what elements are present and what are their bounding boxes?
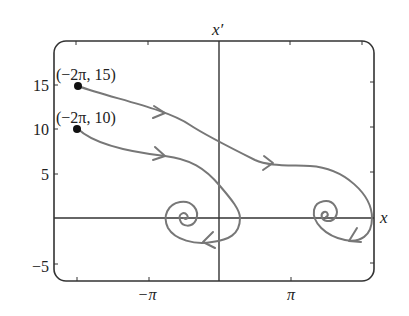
x-tick-label-neg-pi: −π (138, 286, 158, 303)
arrow-icon (153, 106, 165, 118)
x-axis-label: x (379, 208, 388, 227)
y-tick-label-15: 15 (33, 77, 49, 94)
y-tick-label-10: 10 (33, 121, 49, 138)
start-point-lower (73, 125, 81, 133)
point-label-lower: (−2π, 10) (56, 109, 116, 127)
arrow-icon (203, 232, 215, 248)
point-label-upper: (−2π, 15) (56, 66, 116, 84)
start-point-upper (74, 82, 82, 90)
y-tick-label-neg5: −5 (32, 258, 49, 275)
y-tick-label-5: 5 (41, 166, 49, 183)
x-tick-label-pi: π (287, 286, 296, 303)
arrow-icon (153, 147, 165, 160)
phase-portrait: (−2π, 15) (−2π, 10) 15 10 5 −5 −π π x x′ (0, 0, 409, 316)
trajectory-lower (78, 129, 240, 243)
y-axis-label: x′ (211, 20, 224, 39)
